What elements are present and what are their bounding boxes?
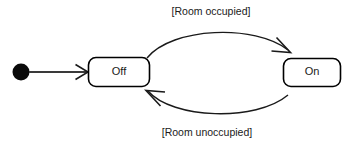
state-machine-diagram: Off On [Room occupied] [Room unoccupied] [0, 0, 356, 146]
diagram-canvas: Off On [Room occupied] [Room unoccupied] [0, 0, 356, 146]
transition-path-off-to-on[interactable] [147, 32, 288, 58]
transition-path-on-to-off[interactable] [148, 91, 288, 114]
transition-label-room-unoccupied: [Room unoccupied] [162, 126, 253, 138]
state-label-off: Off [112, 65, 127, 77]
state-label-on: On [305, 65, 320, 77]
transition-label-room-occupied: [Room occupied] [172, 5, 251, 17]
initial-state-circle [13, 64, 30, 81]
